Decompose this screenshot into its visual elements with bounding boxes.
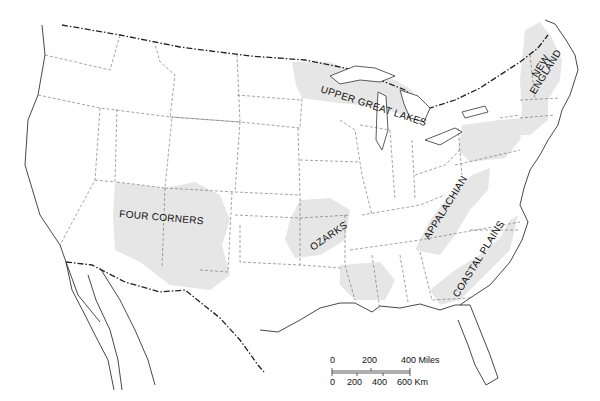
lake-erie — [425, 128, 462, 145]
baja-coast — [66, 262, 155, 390]
us-map: UPPER GREAT LAKES NEW ENGLAND FOUR CORNE… — [0, 0, 600, 401]
scale-miles-200: 200 — [362, 355, 377, 365]
region-southern-plains — [340, 262, 395, 300]
scale-km-400: 400 — [372, 377, 387, 387]
shaded-regions — [113, 22, 562, 305]
scale-km-600: 600 Km — [397, 377, 428, 387]
scale-km-0: 0 — [330, 377, 335, 387]
lake-ontario — [462, 106, 488, 118]
region-appalachian — [415, 168, 490, 255]
region-northeast-pa — [458, 118, 525, 162]
scale-miles-400: 400 Miles — [401, 355, 440, 365]
scale-bar — [332, 368, 410, 376]
region-four-corners — [113, 182, 230, 290]
scale-km-200: 200 — [347, 377, 362, 387]
scale-miles-0: 0 — [330, 355, 335, 365]
